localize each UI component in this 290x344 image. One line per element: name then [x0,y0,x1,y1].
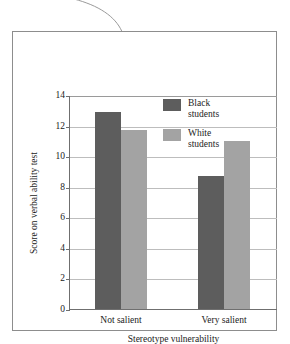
ytick-label-14: 14 [56,91,66,101]
bar-white-very-salient[interactable] [224,141,250,309]
ytick-mark-10 [66,157,70,158]
ytick-mark-2 [66,279,70,280]
ytick-mark-4 [66,249,70,250]
ytick-label-2: 2 [60,275,65,285]
ytick-mark-0 [66,310,70,311]
ytick-label-10: 10 [56,152,66,162]
x-axis-title: Stereotype vulnerability [128,334,220,344]
ytick-label-6: 6 [60,214,65,224]
y-axis-title: Score on verbal ability test [29,152,39,254]
legend-label-white-students: White students [188,128,219,149]
ytick-mark-14 [66,96,70,97]
bar-black-very-salient[interactable] [198,176,224,309]
ytick-label-4: 4 [60,244,65,254]
legend-item-white-students[interactable]: White students [163,128,273,149]
legend-label-black-students: Black students [188,98,219,119]
gridline-14 [70,96,277,97]
xtick-label-very-salient: Very salient [201,316,246,326]
ytick-mark-6 [66,218,70,219]
ytick-label-0: 0 [60,305,65,315]
ytick-label-8: 8 [60,183,65,193]
ytick-mark-12 [66,127,70,128]
legend-swatch-icon-black [163,99,181,111]
chart-legend: Black students White students [163,98,273,158]
bar-white-not-salient[interactable] [121,130,147,309]
ytick-mark-8 [66,188,70,189]
legend-item-black-students[interactable]: Black students [163,98,273,119]
xtick-label-not-salient: Not salient [100,316,141,326]
legend-swatch-icon-white [163,129,181,141]
ytick-label-12: 12 [56,122,66,132]
chart-frame: Score on verbal ability test 14 12 10 8 … [12,31,277,331]
bar-black-not-salient[interactable] [95,112,121,309]
